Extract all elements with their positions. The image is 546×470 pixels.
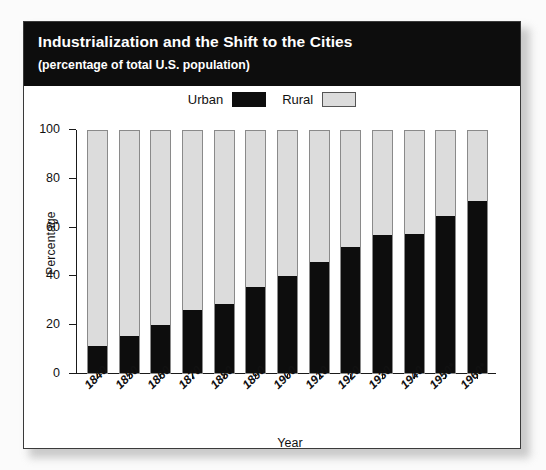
bar-1890	[245, 130, 266, 374]
footnote-line-1: *Based on "current urban definition."	[86, 448, 234, 449]
y-tick-label-100: 100	[39, 122, 60, 136]
rural-swatch	[322, 92, 356, 107]
bar-1910	[309, 130, 330, 374]
bar-segment-urban	[373, 235, 392, 373]
bar-1840	[87, 130, 108, 374]
y-tick-80: 80	[69, 178, 76, 179]
legend-item-rural: Rural	[282, 92, 356, 107]
y-tick-label-40: 40	[46, 268, 60, 282]
y-tick-label-80: 80	[46, 171, 60, 185]
urban-swatch	[232, 92, 266, 107]
bar-segment-urban	[310, 262, 329, 373]
bar-1940	[404, 130, 425, 374]
x-label-slot: 1910	[309, 380, 330, 420]
x-label-slot: 1900	[277, 380, 298, 420]
bar-segment-urban	[436, 216, 455, 373]
bar-1900	[277, 130, 298, 374]
chart-footnote: *Based on "current urban definition." So…	[86, 448, 234, 449]
page-title: Industrialization and the Shift to the C…	[38, 31, 520, 53]
x-label-slot: 1850	[119, 380, 140, 420]
x-label-slot: 1920	[340, 380, 361, 420]
y-tick-20: 20	[69, 324, 76, 325]
x-label-group: 1840185018601870188018901900191019201930…	[77, 380, 496, 420]
bar-1850	[119, 130, 140, 374]
bar-1950-star	[435, 130, 456, 374]
bar-segment-urban	[278, 276, 297, 373]
x-label-slot: 1880	[214, 380, 235, 420]
y-tick-100: 100	[69, 129, 76, 130]
x-label-slot: 1930	[372, 380, 393, 420]
chart-page: Industrialization and the Shift to the C…	[0, 0, 546, 470]
bar-1870	[182, 130, 203, 374]
y-tick-60: 60	[69, 227, 76, 228]
bar-1930	[372, 130, 393, 374]
x-label-slot: 1960*	[467, 380, 488, 420]
legend-label-rural: Rural	[282, 92, 313, 107]
bar-1880	[214, 130, 235, 374]
bar-1860	[150, 130, 171, 374]
bar-segment-urban	[405, 234, 424, 373]
bar-1960-star	[467, 130, 488, 374]
x-label-slot: 1890	[245, 380, 266, 420]
bar-segment-urban	[215, 304, 234, 373]
bar-group	[77, 130, 496, 374]
x-label-slot: 1940	[404, 380, 425, 420]
axis-area: 020406080100 184018501860187018801890190…	[76, 130, 496, 374]
bar-1920	[340, 130, 361, 374]
x-label-slot: 1950*	[435, 380, 456, 420]
legend-item-urban: Urban	[188, 92, 266, 107]
y-tick-label-0: 0	[53, 366, 60, 380]
x-label-slot: 1870	[182, 380, 203, 420]
y-tick-label-60: 60	[46, 220, 60, 234]
bar-segment-urban	[246, 287, 265, 373]
chart-card: Industrialization and the Shift to the C…	[23, 21, 521, 449]
y-tick-0: 0	[69, 373, 76, 374]
chart-legend: Urban Rural	[24, 92, 520, 107]
legend-label-urban: Urban	[188, 92, 223, 107]
page-subtitle: (percentage of total U.S. population)	[38, 55, 520, 75]
x-label-slot: 1860	[150, 380, 171, 420]
bar-segment-urban	[341, 247, 360, 373]
y-tick-40: 40	[69, 275, 76, 276]
plot-area: Percentage 020406080100 1840185018601870…	[24, 118, 521, 418]
bar-segment-urban	[468, 201, 487, 373]
title-bar: Industrialization and the Shift to the C…	[24, 22, 520, 86]
x-label-slot: 1840	[87, 380, 108, 420]
y-tick-label-20: 20	[46, 317, 60, 331]
